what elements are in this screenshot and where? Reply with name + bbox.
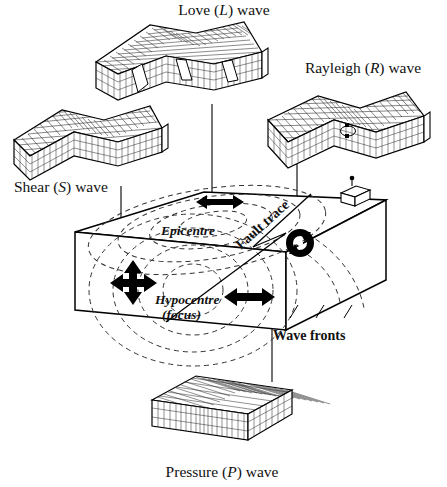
pressure-wave-block-icon (152, 376, 330, 440)
seismic-diagram-svg: Love (L) wave Rayleigh (R) wave Shear (S… (0, 0, 447, 487)
crust-block-icon (75, 192, 386, 330)
hypocentre-label-line2: (focus) (162, 307, 201, 322)
epicentre-label: Epicentre (160, 223, 215, 238)
figure-canvas: Love (L) wave Rayleigh (R) wave Shear (S… (0, 0, 447, 487)
wave-fronts-label: Wave fronts (273, 328, 346, 343)
shear-wave-block-icon (14, 102, 168, 180)
circular-rotation-arrow-icon (289, 232, 311, 254)
seismograph-station-building-icon (341, 176, 370, 206)
rayleigh-wave-label: Rayleigh (R) wave (305, 59, 421, 77)
rayleigh-wave-block-icon (268, 91, 430, 168)
pressure-wave-label: Pressure (P) wave (166, 463, 279, 481)
love-wave-block-icon (96, 19, 270, 100)
love-wave-label: Love (L) wave (178, 1, 269, 19)
shear-wave-label: Shear (S) wave (14, 178, 108, 196)
hypocentre-label-line1: Hypocentre (154, 292, 219, 307)
